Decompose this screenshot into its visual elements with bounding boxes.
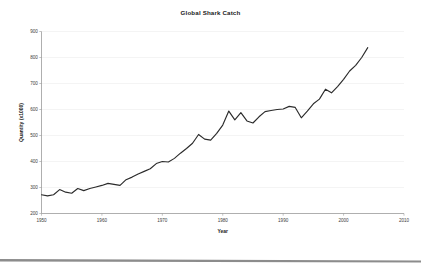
x-tick-label-2000: 2000 xyxy=(338,218,349,223)
x-tick-label-1990: 1990 xyxy=(278,218,289,223)
y-tick-label-800: 800 xyxy=(30,55,38,60)
x-tick-label-1980: 1980 xyxy=(218,218,229,223)
x-tick-label-1960: 1960 xyxy=(97,218,108,223)
x-axis xyxy=(42,214,405,216)
y-tick-label-300: 300 xyxy=(30,185,38,190)
x-tick-label-2010: 2010 xyxy=(399,218,410,223)
chart-container: Global Shark Catch 200300400500600700800… xyxy=(0,0,421,263)
line-chart-plot: 200300400500600700800900 195019601970198… xyxy=(0,0,421,263)
data-series-group xyxy=(42,48,368,196)
x-tick-label-1950: 1950 xyxy=(36,218,47,223)
x-tick-labels: 1950196019701980199020002010 xyxy=(36,218,409,223)
y-axis-title: Quantity (x1000) xyxy=(18,103,24,142)
series-line-0 xyxy=(42,48,368,196)
y-tick-label-500: 500 xyxy=(30,133,38,138)
y-axis xyxy=(39,32,41,214)
y-tick-labels: 200300400500600700800900 xyxy=(30,29,38,216)
x-tick-label-1970: 1970 xyxy=(157,218,168,223)
y-tick-label-600: 600 xyxy=(30,107,38,112)
y-tick-label-200: 200 xyxy=(30,211,38,216)
gridlines xyxy=(42,32,405,188)
x-axis-title: Year xyxy=(217,228,228,234)
y-tick-label-900: 900 xyxy=(30,29,38,34)
y-tick-label-700: 700 xyxy=(30,81,38,86)
bottom-divider-bar xyxy=(0,249,421,254)
y-tick-label-400: 400 xyxy=(30,159,38,164)
